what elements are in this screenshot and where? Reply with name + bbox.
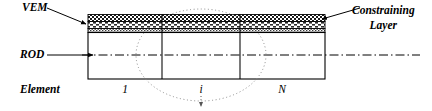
label-rod: ROD — [20, 48, 44, 61]
constraining-layer-band — [88, 15, 325, 22]
rod-body — [88, 33, 325, 80]
vem-leader-line — [47, 8, 86, 24]
constraining-line-1: Constraining — [352, 4, 415, 16]
label-element: Element — [20, 83, 60, 96]
layer-stack — [88, 15, 325, 33]
element-number-last: N — [270, 83, 294, 95]
vem-layer-band — [88, 22, 325, 29]
element-number-first: 1 — [113, 83, 137, 95]
label-vem: VEM — [22, 1, 48, 14]
element-number-middle: i — [189, 83, 213, 95]
label-constraining-layer: Constraining Layer — [352, 3, 415, 33]
constraining-line-2: Layer — [370, 19, 397, 31]
figure-constrained-layer-rod: VEM ROD Element Constraining Layer 1 i N — [0, 0, 432, 111]
vem-lower-band — [88, 29, 325, 33]
